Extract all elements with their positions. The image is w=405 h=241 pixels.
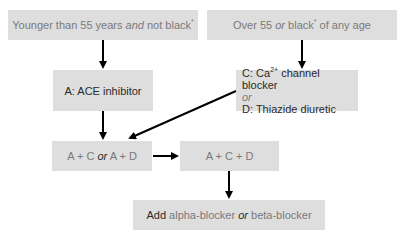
node-younger-than-55: Younger than 55 years and not black* [8, 10, 198, 40]
text-part: A + C [67, 150, 97, 162]
node-text: Younger than 55 years and not black* [12, 19, 194, 31]
superscript: 2+ [270, 66, 278, 73]
text-part: black [285, 19, 314, 31]
text-part: beta-blocker [248, 209, 312, 221]
verb-add: Add [146, 209, 166, 221]
node-text: Add alpha-blocker or beta-blocker [146, 209, 311, 221]
text-part: not black [144, 19, 191, 31]
text-part: alpha-blocker [166, 209, 238, 221]
emphasis-or: or [238, 209, 248, 221]
node-text: Over 55 or black* of any age [233, 19, 371, 31]
text-part: Younger than 55 years [12, 19, 125, 31]
emphasis-or: or [242, 91, 252, 103]
line-d: D: Thiazide diuretic [242, 103, 336, 115]
text-part: A + D [107, 150, 137, 162]
node-text: A: ACE inhibitor [64, 85, 141, 97]
node-a-plus-c-plus-d: A + C + D [180, 141, 279, 171]
text-part: of any age [317, 19, 371, 31]
drug-letter-a: A [64, 85, 71, 97]
emphasis-or: or [97, 150, 107, 162]
drug-label: Thiazide diuretic [256, 103, 336, 115]
node-a-plus-c-or-a-plus-d: A + C or A + D [52, 141, 152, 171]
node-text: A + C or A + D [67, 150, 137, 162]
node-c-or-d: C: Ca2+ channel blocker or D: Thiazide d… [236, 70, 358, 111]
line-c: C: Ca2+ channel blocker [242, 67, 358, 91]
node-add-blocker: Add alpha-blocker or beta-blocker [133, 200, 325, 230]
footnote-marker: * [191, 18, 194, 25]
emphasis-or: or [275, 19, 285, 31]
node-over-55-or-black: Over 55 or black* of any age [207, 10, 397, 40]
node-ace-inhibitor: A: ACE inhibitor [53, 70, 153, 111]
drug-letter-d: D [242, 103, 250, 115]
node-text: A + C + D [206, 150, 254, 162]
drug-letter-c: C [242, 67, 250, 79]
separator: : Ca [250, 67, 270, 79]
drug-label: ACE inhibitor [77, 85, 141, 97]
emphasis-and: and [126, 19, 144, 31]
text-part: Over 55 [233, 19, 275, 31]
